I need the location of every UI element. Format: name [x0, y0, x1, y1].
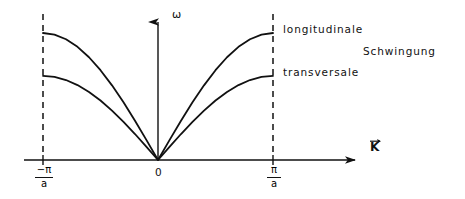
k-vector-glyph: K	[370, 139, 379, 153]
label-schwingung: Schwingung	[363, 46, 436, 57]
x-tick-label-left-zone-boundary: −π a	[28, 165, 60, 189]
curve-label-transversale: transversale	[283, 67, 359, 78]
vector-arrow-icon	[370, 138, 381, 143]
y-axis-label: ω	[172, 9, 181, 20]
x-tick-right-numerator: π	[258, 165, 290, 177]
x-axis-label: K	[370, 139, 379, 153]
x-tick-right-denominator: a	[258, 178, 290, 190]
origin-label: 0	[155, 167, 162, 178]
curve-label-longitudinale: longitudinale	[283, 24, 363, 35]
x-tick-left-denominator: a	[28, 178, 60, 190]
phonon-dispersion-figure: ω K 0 −π a π a longitudinale transversal…	[0, 0, 465, 199]
x-tick-label-right-zone-boundary: π a	[258, 165, 290, 189]
dispersion-plot	[0, 0, 465, 199]
x-tick-left-numerator: −π	[28, 165, 60, 177]
